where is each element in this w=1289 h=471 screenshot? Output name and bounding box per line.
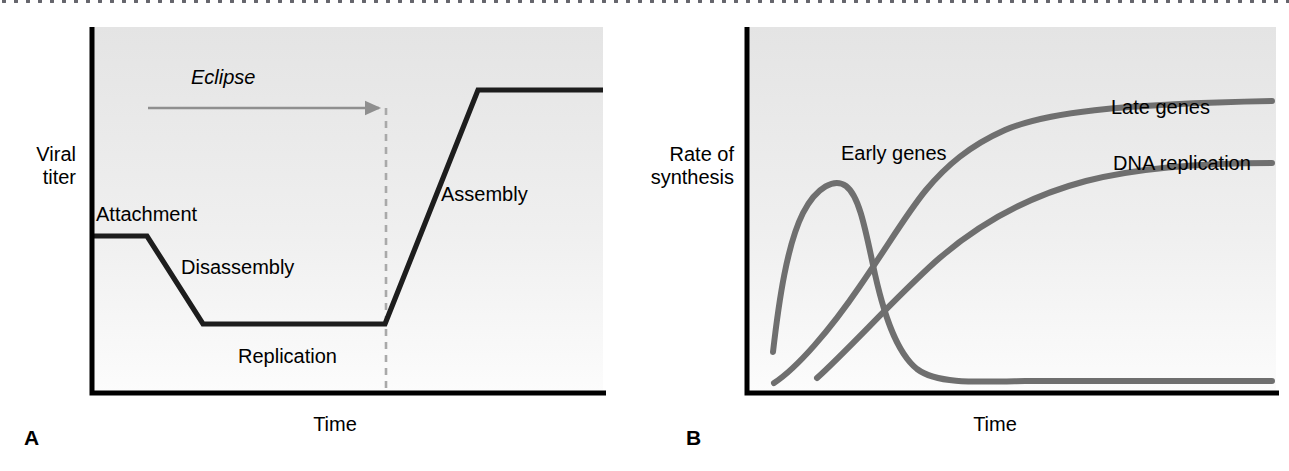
panel-b-plot: [645, 0, 1289, 471]
assembly-label: Assembly: [441, 183, 528, 206]
panel-b: Rate of synthesis Time B Early genes Lat…: [645, 0, 1289, 471]
panel-b-x-axis-label: Time: [930, 413, 1060, 436]
early-genes-label: Early genes: [841, 142, 947, 165]
panel-a-x-axis-label: Time: [270, 413, 400, 436]
replication-label: Replication: [238, 345, 337, 368]
panel-b-y-axis-label: Rate of synthesis: [629, 143, 734, 189]
panel-b-letter: B: [686, 426, 701, 450]
eclipse-label: Eclipse: [191, 66, 255, 89]
late-genes-label: Late genes: [1111, 96, 1210, 119]
panel-a: Viral titer Time A Eclipse Attachment Di…: [0, 0, 645, 471]
panel-a-plot: [0, 0, 645, 471]
panel-a-letter: A: [24, 426, 39, 450]
panel-a-y-axis-label: Viral titer: [4, 143, 76, 189]
figure-container: Viral titer Time A Eclipse Attachment Di…: [0, 0, 1289, 471]
attachment-label: Attachment: [96, 203, 197, 226]
dna-replication-label: DNA replication: [1113, 152, 1251, 175]
disassembly-label: Disassembly: [181, 256, 294, 279]
